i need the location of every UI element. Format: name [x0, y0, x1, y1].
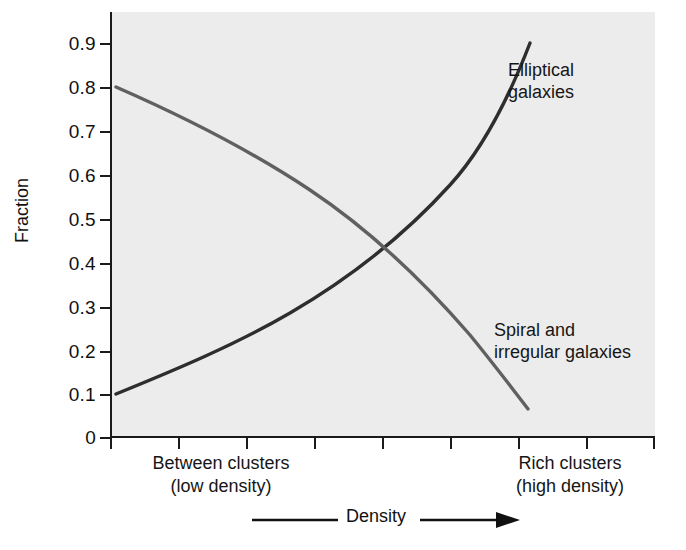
y-tick-mark: [100, 351, 111, 353]
y-tick-mark: [100, 219, 111, 221]
density-label: Density: [346, 506, 406, 527]
y-tick-label: 0.2: [34, 341, 96, 363]
y-axis-title: Fraction: [12, 178, 33, 243]
figure-galaxy-fraction-vs-density: 0.9 0.8 0.7 0.6 0.5 0.4 0.3 0.2 0.1 0 Fr…: [0, 0, 686, 550]
x-tick-mark: [586, 437, 588, 449]
x-tick-mark: [450, 437, 452, 449]
y-tick-label: 0.4: [34, 253, 96, 275]
y-tick-mark: [100, 87, 111, 89]
y-tick-label: 0.7: [34, 121, 96, 143]
y-tick-label: 0.6: [34, 165, 96, 187]
series-label-spiral: Spiral and irregular galaxies: [494, 320, 631, 364]
y-tick-label: 0.3: [34, 297, 96, 319]
y-axis-line: [110, 12, 112, 439]
y-tick-label: 0.5: [34, 209, 96, 231]
y-tick-mark: [100, 394, 111, 396]
y-tick-label: 0: [34, 427, 96, 449]
y-tick-mark: [100, 307, 111, 309]
y-tick-mark: [100, 131, 111, 133]
y-tick-mark: [100, 263, 111, 265]
x-tick-mark: [246, 437, 248, 449]
x-tick-mark: [382, 437, 384, 449]
y-tick-label: 0.1: [34, 384, 96, 406]
x-tick-mark: [110, 437, 112, 449]
y-tick-label: 0.9: [34, 33, 96, 55]
y-tick-label: 0.8: [34, 77, 96, 99]
x-category-left: Between clusters (low density): [116, 452, 326, 498]
x-tick-mark: [653, 437, 655, 449]
y-tick-mark: [100, 175, 111, 177]
x-category-right: Rich clusters (high density): [470, 452, 670, 498]
x-tick-mark: [178, 437, 180, 449]
density-arrow-axis: Density: [252, 506, 520, 534]
y-tick-mark: [100, 43, 111, 45]
series-label-elliptical: Elliptical galaxies: [508, 60, 574, 104]
x-tick-mark: [518, 437, 520, 449]
x-tick-mark: [314, 437, 316, 449]
